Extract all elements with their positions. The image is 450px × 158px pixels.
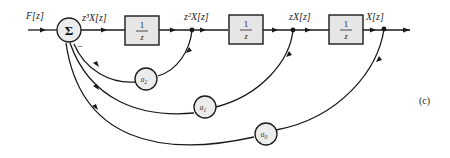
arrow-s3	[101, 28, 107, 33]
signal-label-s0: X[z]	[365, 11, 384, 22]
signal-label-s1: zX[z]	[288, 11, 311, 22]
delay-block-1: 1 z	[125, 16, 159, 45]
delay-block-3: 1 z	[329, 15, 363, 44]
feedback-a2-in	[158, 30, 192, 76]
signal-label-s2: z²X[z]	[183, 11, 209, 22]
delay-block-2: 1 z	[229, 15, 263, 44]
svg-text:1: 1	[344, 19, 349, 29]
svg-text:1: 1	[140, 20, 145, 30]
minus-sign: −	[77, 41, 83, 52]
arrow-s2	[200, 28, 206, 33]
signal-label-s3: z³X[z]	[81, 12, 107, 23]
arrow-block2-out	[272, 28, 278, 33]
arrow-block3-out	[370, 28, 376, 33]
sigma-symbol: Σ	[65, 23, 74, 38]
figure-tag: (c)	[419, 95, 430, 107]
arrow-block1-out	[170, 28, 176, 33]
feedback-a0-out	[66, 43, 254, 145]
block-diagram: Σ − 1 z 1 z 1 z a2 a1 a0 F[z] z³X[z]	[0, 0, 450, 158]
input-label: F[z]	[25, 10, 44, 21]
input-arrow	[40, 28, 46, 33]
arrow-s1	[305, 28, 311, 33]
svg-text:1: 1	[244, 19, 249, 29]
feedback-a2-out	[74, 44, 136, 82]
output-arrow	[403, 28, 410, 33]
arrow-a2-return	[93, 61, 99, 67]
arrow-a0-down	[376, 56, 382, 62]
